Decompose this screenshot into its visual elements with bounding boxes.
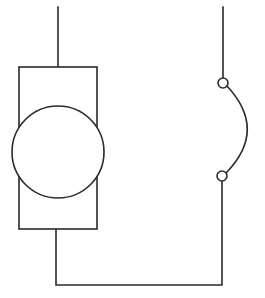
motor-armature-circle: [12, 106, 104, 198]
switch-terminal-bottom: [217, 171, 227, 181]
circuit-diagram: [0, 0, 265, 298]
switch-arc: [226, 86, 247, 173]
switch-terminal-top: [218, 78, 228, 88]
motor-symbol: [12, 67, 104, 229]
switch-symbol: [217, 78, 228, 181]
